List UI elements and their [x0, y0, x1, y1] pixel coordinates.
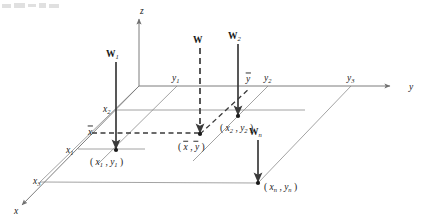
figure-canvas: zyxx2xx1x3y1yy2y3W1WW2Wn( x1 , y1 )( x2 …	[0, 0, 423, 222]
point-label-pbar: ( x , y )	[178, 142, 205, 153]
point-label-pn: ( xn , yn )	[264, 182, 297, 193]
force-label-W2: W2	[228, 31, 242, 42]
axis-tick-label-y2: y2	[263, 73, 272, 84]
force-label-W1: W1	[106, 49, 119, 60]
gridline-y1	[98, 86, 177, 164]
coordinate-axes	[22, 19, 390, 205]
axis-tick-label-ybar: y	[245, 74, 251, 84]
x-axis-label: x	[13, 206, 19, 216]
axis-tick-label-x1: x1	[65, 145, 73, 156]
z-axis-label: z	[139, 6, 144, 16]
y-axis-label: y	[408, 82, 414, 92]
force-vectors	[116, 44, 258, 182]
point-marker-p1	[114, 148, 118, 152]
point-label-p1: ( x1 , y1 )	[90, 157, 123, 168]
plane-grid-lines	[78, 86, 305, 164]
point-marker-p2	[236, 114, 240, 118]
plane-edges	[40, 86, 351, 183]
point-marker-pn	[256, 181, 260, 185]
axis-tick-label-x2: x2	[102, 104, 111, 115]
point-label-p2: ( x2 , y2 )	[220, 123, 253, 134]
axis-tick-label-xbar: x	[87, 127, 93, 137]
point-marker-pbar	[198, 132, 202, 136]
text-labels: zyxx2xx1x3y1yy2y3W1WW2Wn( x1 , y1 )( x2 …	[13, 6, 414, 216]
force-diagram-svg: zyxx2xx1x3y1yy2y3W1WW2Wn( x1 , y1 )( x2 …	[0, 0, 423, 222]
axis-tick-label-y1: y1	[171, 73, 179, 84]
axis-tick-label-x3: x3	[32, 176, 40, 187]
axis-tick-label-y3: y3	[346, 73, 354, 84]
edge-x3-bottom	[40, 182, 258, 183]
edge-y3-diagonal	[258, 86, 351, 183]
force-label-W: W	[193, 35, 203, 45]
